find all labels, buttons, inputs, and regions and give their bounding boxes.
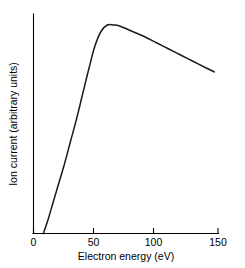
x-tick-label-0: 0 (31, 236, 37, 248)
ionization-efficiency-chart: 0 50 100 150 Electron energy (eV) Ion cu… (0, 0, 245, 268)
plot-canvas: 0 50 100 150 Electron energy (eV) Ion cu… (0, 0, 245, 268)
x-tick-label-50: 50 (88, 236, 100, 248)
x-axis-title: Electron energy (eV) (78, 250, 174, 262)
x-tick-label-150: 150 (209, 236, 227, 248)
x-tick-label-100: 100 (145, 236, 163, 248)
y-axis-title: Ion current (arbitrary units) (7, 62, 19, 186)
ionization-curve (43, 24, 214, 233)
